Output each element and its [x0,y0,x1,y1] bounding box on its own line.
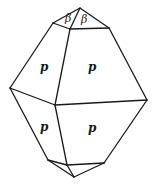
face-label-lower-left: p [40,120,49,134]
edge-bottom-right-apex [74,163,104,177]
face-label-upper-left: p [40,60,49,74]
face-label-upper-right: p [88,60,97,74]
edge-upper-center [55,29,70,105]
edge-lower-center [55,105,67,165]
face-label-top-left: β [64,12,71,25]
edge-lower-right-outer [104,100,147,163]
face-label-lower-right: p [88,121,97,135]
crystal-drawing: β β p p p p [0,0,157,191]
face-label-top-right: β [80,13,87,26]
edge-bottom-left-apex [48,160,74,177]
edge-upper-left-outer [10,23,53,88]
edge-upper-right-outer [109,28,147,100]
edge-top-center-right [70,28,109,29]
edge-girdle-right [55,100,147,105]
crystal-diagram: β β p p p p [0,0,157,191]
edge-bottom-center-right [67,163,104,165]
edge-girdle-left [10,88,55,105]
